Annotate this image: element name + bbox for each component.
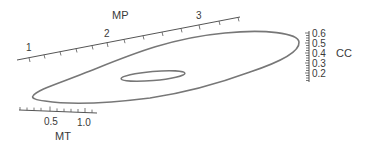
cc-tick-label: 0.2: [312, 68, 326, 79]
cc-axis-title: CC: [336, 47, 352, 59]
mp-axis-title: MP: [112, 9, 129, 21]
mp-axis-ticks: [29, 17, 239, 62]
mp-axis-line: [17, 17, 240, 60]
mp-tick-label: 3: [196, 10, 202, 21]
cc-axis: 0.6 0.5 0.4 0.3 0.2 CC: [305, 28, 352, 82]
diagram-canvas: 1 2 3 MP: [0, 0, 368, 148]
cc-axis-ticks: [305, 33, 309, 81]
mt-axis-title: MT: [55, 130, 71, 142]
mp-tick-label: 2: [104, 28, 110, 39]
mt-tick-label: 1.0: [77, 117, 91, 128]
inner-loop-curve: [121, 69, 186, 84]
outer-loop-curve: [33, 31, 299, 103]
mp-tick-label: 1: [26, 42, 32, 53]
mt-axis: 0.5 1.0 MT: [19, 107, 97, 143]
mt-tick-label: 0.5: [44, 116, 58, 127]
